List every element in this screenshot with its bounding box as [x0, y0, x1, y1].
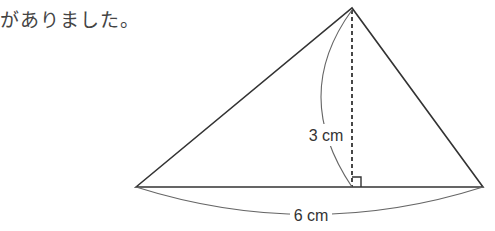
- height-label: 3 cm: [309, 127, 344, 144]
- base-label: 6 cm: [294, 207, 329, 224]
- right-angle-marker: [352, 177, 361, 187]
- triangle-figure: 3 cm 6 cm: [0, 0, 495, 231]
- height-arc: [321, 10, 352, 187]
- triangle-shape: [136, 8, 483, 187]
